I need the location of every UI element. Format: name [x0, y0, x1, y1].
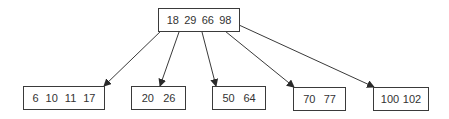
- edge-root-to-leaf-4: [220, 27, 294, 87]
- root-key: 98: [219, 14, 231, 26]
- root-key: 29: [184, 14, 196, 26]
- leaf-node-1: 6 10 11 17: [23, 86, 105, 110]
- root-key: 66: [202, 14, 214, 26]
- root-key: 18: [167, 14, 179, 26]
- leaf-key: 64: [243, 92, 255, 104]
- leaf-node-5: 100 102: [373, 87, 429, 111]
- leaf-key: 20: [142, 92, 154, 104]
- leaf-key: 6: [32, 92, 38, 104]
- leaf-key: 70: [303, 93, 315, 105]
- edge-root-to-leaf-3: [202, 32, 216, 86]
- leaf-node-4: 70 77: [293, 87, 346, 111]
- leaf-key: 17: [83, 92, 95, 104]
- leaf-key: 77: [324, 93, 336, 105]
- leaf-key: 11: [65, 92, 76, 104]
- leaf-key: 50: [222, 92, 234, 104]
- leaf-node-3: 50 64: [212, 86, 266, 110]
- edge-root-to-leaf-1: [104, 29, 163, 86]
- leaf-key: 10: [46, 92, 58, 104]
- leaf-key: 100: [381, 93, 399, 105]
- edge-root-to-leaf-5: [239, 25, 374, 87]
- leaf-key: 26: [163, 92, 175, 104]
- leaf-node-2: 20 26: [131, 86, 186, 110]
- leaf-key: 102: [403, 93, 421, 105]
- edge-root-to-leaf-2: [160, 32, 179, 86]
- b-tree-diagram: 18 29 66 98 6 10 11 17 20 26 50 64 70 77…: [0, 0, 449, 119]
- root-node: 18 29 66 98: [158, 8, 240, 32]
